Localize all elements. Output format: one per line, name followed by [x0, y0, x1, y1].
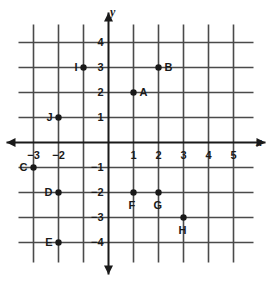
x-tick-label: 5 — [222, 150, 246, 161]
y-axis-label: y — [110, 6, 115, 18]
x-tick-label: −2 — [47, 150, 71, 161]
y-tick-label: −4 — [83, 237, 104, 248]
plotted-point — [30, 164, 36, 170]
y-tick-label: −1 — [83, 162, 104, 173]
x-tick-label: 4 — [197, 150, 221, 161]
point-label: I — [68, 62, 78, 73]
x-tick-label: 1 — [122, 150, 146, 161]
point-label: H — [179, 225, 187, 236]
plotted-point — [155, 189, 161, 195]
y-tick-label: 3 — [83, 62, 104, 73]
point-label: D — [43, 187, 53, 198]
coordinate-plane — [0, 0, 271, 281]
plotted-point — [55, 114, 61, 120]
y-tick-label: 4 — [83, 37, 104, 48]
y-tick-label: 2 — [83, 87, 104, 98]
y-tick-label: 1 — [83, 112, 104, 123]
plotted-point — [180, 214, 186, 220]
plotted-point — [155, 64, 161, 70]
x-tick-label: −3 — [22, 150, 46, 161]
point-label: C — [18, 162, 28, 173]
point-label: A — [140, 87, 148, 98]
y-tick-label: −2 — [83, 187, 104, 198]
point-label: J — [43, 112, 53, 123]
y-tick-label: −3 — [83, 212, 104, 223]
point-label: G — [154, 200, 163, 211]
plotted-point — [130, 89, 136, 95]
plotted-point — [55, 189, 61, 195]
point-label: F — [129, 200, 136, 211]
plotted-point — [55, 239, 61, 245]
x-tick-label: 2 — [147, 150, 171, 161]
point-label: E — [43, 237, 53, 248]
plotted-point — [130, 189, 136, 195]
x-tick-label: 3 — [172, 150, 196, 161]
x-axis-label: x — [256, 136, 262, 148]
point-label: B — [165, 62, 173, 73]
